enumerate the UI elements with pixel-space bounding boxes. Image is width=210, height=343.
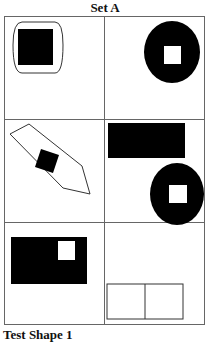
black-rectangle xyxy=(11,237,87,284)
cell-2-1 xyxy=(10,124,90,194)
white-square xyxy=(164,46,181,64)
white-square xyxy=(58,241,75,260)
cell-2-2 xyxy=(108,123,204,225)
black-rotated-square xyxy=(35,149,59,173)
black-square xyxy=(18,29,53,65)
test-shape-caption: Test Shape 1 xyxy=(3,327,73,343)
white-square xyxy=(169,185,187,203)
cell-3-2 xyxy=(107,284,183,319)
cell-3-1 xyxy=(11,237,87,284)
cell-1-2 xyxy=(144,21,200,83)
black-rectangle xyxy=(108,123,185,158)
cell-1-1 xyxy=(13,22,63,73)
